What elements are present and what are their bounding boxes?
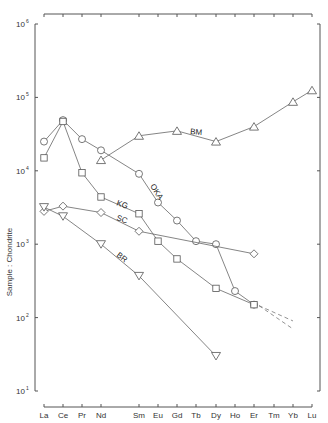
y-tick-exponent: 1: [26, 385, 29, 391]
diamond-marker: [250, 250, 258, 258]
series-kg: KG: [41, 118, 293, 329]
x-tick-label-lu: Lu: [308, 411, 317, 420]
triangle-up-marker: [289, 98, 298, 106]
x-tick-label-sm: Sm: [133, 411, 145, 420]
circle-marker: [41, 138, 48, 145]
y-tick-label: 10: [16, 93, 25, 102]
y-tick-label: 10: [16, 167, 25, 176]
dashed-extension: [259, 306, 293, 321]
square-marker: [79, 170, 85, 176]
triangle-up-marker: [308, 86, 317, 94]
x-tick-label-er: Er: [250, 411, 258, 420]
series-line-kg: [44, 121, 254, 304]
x-tick-label-yb: Yb: [288, 411, 298, 420]
series-line-br: [44, 207, 216, 356]
triangle-down-marker: [212, 352, 221, 360]
axes: [35, 14, 320, 407]
square-marker: [213, 285, 219, 291]
y-tick-exponent: 2: [26, 312, 29, 318]
series-label-sc: SC: [115, 213, 129, 225]
square-marker: [98, 194, 104, 200]
y-tick-exponent: 4: [26, 165, 29, 171]
series-line-sc: [44, 206, 254, 254]
series-label-kg: KG: [115, 198, 129, 210]
triangle-up-marker: [97, 156, 106, 164]
series-group: OKAKGBMSCBR: [40, 86, 317, 360]
diamond-marker: [135, 227, 143, 235]
series-bm: BM: [97, 86, 317, 163]
ree-chondrite-chart: 106105104103102101 LaCePrNdSmEuGdTbDyHoE…: [0, 0, 328, 423]
y-axis-title: Sample : Chondrite: [5, 227, 14, 296]
dashed-extension: [259, 306, 293, 329]
square-marker: [251, 301, 257, 307]
x-tick-label-ho: Ho: [230, 411, 241, 420]
y-tick-exponent: 5: [26, 91, 29, 97]
series-line-oka: [44, 120, 254, 305]
square-marker: [60, 118, 66, 124]
y-tick-label: 10: [16, 314, 25, 323]
square-marker: [155, 238, 161, 244]
y-tick-exponent: 3: [26, 238, 29, 244]
circle-marker: [232, 288, 239, 295]
triangle-up-marker: [250, 123, 259, 131]
series-sc: SC: [40, 202, 258, 258]
x-tick-label-eu: Eu: [153, 411, 163, 420]
circle-marker: [136, 170, 143, 177]
x-tick-label-nd: Nd: [96, 411, 106, 420]
square-marker: [41, 155, 47, 161]
circle-marker: [79, 136, 86, 143]
x-tick-label-ce: Ce: [58, 411, 69, 420]
diamond-marker: [97, 209, 105, 217]
y-tick-label: 10: [16, 240, 25, 249]
x-tick-label-dy: Dy: [211, 411, 221, 420]
square-marker: [136, 211, 142, 217]
x-tick-label-tm: Tm: [268, 411, 280, 420]
y-tick-label: 10: [16, 20, 25, 29]
triangle-up-marker: [173, 127, 182, 135]
y-tick-exponent: 6: [26, 18, 29, 24]
triangle-down-marker: [59, 213, 68, 221]
x-tick-label-pr: Pr: [78, 411, 86, 420]
square-marker: [174, 256, 180, 262]
circle-marker: [174, 217, 181, 224]
x-tick-label-tb: Tb: [191, 411, 201, 420]
circle-marker: [98, 147, 105, 154]
x-tick-label-la: La: [40, 411, 49, 420]
triangle-up-marker: [212, 138, 221, 146]
circle-marker: [193, 238, 200, 245]
y-tick-label: 10: [16, 387, 25, 396]
x-tick-label-gd: Gd: [172, 411, 183, 420]
diamond-marker: [59, 202, 67, 210]
series-label-bm: BM: [190, 127, 203, 137]
series-line-bm: [101, 90, 312, 160]
series-oka: OKA: [41, 117, 294, 321]
series-label-br: BR: [115, 250, 129, 264]
